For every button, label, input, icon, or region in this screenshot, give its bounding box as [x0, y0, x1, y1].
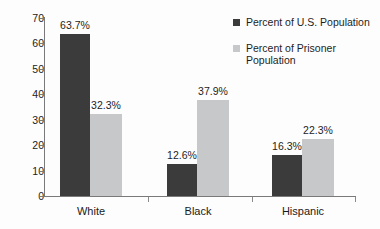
legend-label-us-population: Percent of U.S. Population [246, 16, 379, 29]
bar-hispanic-us-population [272, 155, 302, 196]
legend-swatch-icon-prisoner-population [233, 45, 240, 52]
y-tick-mark-10 [40, 171, 44, 172]
legend-label-prisoner-population: Percent of Prisoner [246, 42, 379, 55]
category-label-black: Black [168, 205, 228, 218]
bar-label-hispanic-prisoner-population: 22.3% [293, 125, 343, 136]
y-tick-label-40: 40 [8, 89, 44, 100]
y-tick-mark-0 [40, 196, 44, 197]
bar-label-white-us-population: 63.7% [50, 20, 100, 31]
bar-label-white-prisoner-population: 32.3% [81, 100, 131, 111]
y-tick-label-20: 20 [8, 140, 44, 151]
y-tick-mark-50 [40, 69, 44, 70]
category-label-hispanic: Hispanic [273, 205, 333, 218]
bar-chart: 70 60 50 40 30 20 10 0 63.7% 32.3% 12.6%… [0, 0, 380, 229]
legend-item-us-population: Percent of U.S. Population [233, 16, 379, 29]
legend-item-prisoner-population: Percent of Prisoner Population [233, 42, 379, 67]
y-tick-label-60: 60 [8, 38, 44, 49]
y-tick-label-70: 70 [8, 13, 44, 24]
chart-legend: Percent of U.S. Population Percent of Pr… [233, 16, 379, 80]
bar-white-prisoner-population [90, 114, 122, 196]
y-tick-mark-60 [40, 43, 44, 44]
bar-black-us-population [167, 164, 197, 196]
y-tick-label-50: 50 [8, 64, 44, 75]
y-tick-mark-70 [40, 18, 44, 19]
bar-black-prisoner-population [197, 100, 229, 196]
legend-swatch-icon-us-population [233, 19, 240, 26]
y-tick-label-10: 10 [8, 166, 44, 177]
bar-label-hispanic-us-population: 16.3% [262, 141, 312, 152]
y-tick-mark-30 [40, 120, 44, 121]
y-tick-mark-20 [40, 145, 44, 146]
category-label-white: White [61, 205, 121, 218]
category-separator-tick-3 [355, 197, 356, 202]
x-axis-line [44, 196, 356, 197]
y-tick-label-0: 0 [8, 191, 44, 202]
y-axis-line [44, 17, 45, 197]
bar-label-black-us-population: 12.6% [157, 150, 207, 161]
category-separator-tick-1 [148, 197, 149, 202]
legend-label-prisoner-population-line2: Population [246, 54, 379, 67]
category-separator-tick-2 [252, 197, 253, 202]
y-tick-mark-40 [40, 94, 44, 95]
bar-label-black-prisoner-population: 37.9% [188, 86, 238, 97]
y-tick-label-30: 30 [8, 115, 44, 126]
bar-white-us-population [60, 34, 90, 196]
